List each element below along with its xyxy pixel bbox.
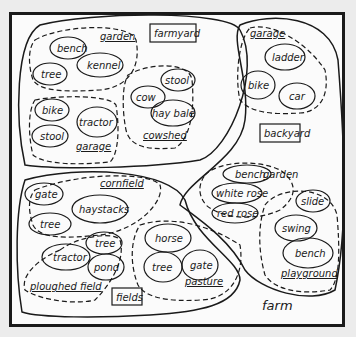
label-farm: farm [262, 298, 293, 313]
label-farmyard-garage: garage [76, 141, 111, 152]
item: ladder [272, 52, 305, 63]
label-cowshed: cowshed [143, 130, 187, 141]
item: cow [136, 92, 157, 103]
item: bench [235, 169, 266, 180]
item: bike [42, 105, 63, 116]
label-backyard-garden: garden [263, 169, 298, 180]
item: gate [35, 189, 58, 200]
item: slide [301, 196, 324, 207]
item: bench [57, 43, 88, 54]
item: tree [152, 262, 172, 273]
item: gate [190, 260, 213, 271]
item: tractor [79, 117, 114, 128]
item: red rose [217, 208, 258, 219]
label-backyard-garage: garage [250, 28, 285, 39]
label-pasture: pasture [184, 276, 223, 287]
item: kennel [87, 60, 121, 71]
item: stool [165, 75, 189, 86]
item: pond [93, 262, 120, 273]
item: tree [95, 238, 115, 249]
item: hay bale [152, 108, 195, 119]
item: horse [155, 233, 183, 244]
item: white rose [216, 188, 268, 199]
item: tractor [53, 252, 88, 263]
item: bench [295, 248, 326, 259]
farm-diagram: farmyard garden bench kennel tree garage… [0, 0, 356, 337]
label-farmyard: farmyard [154, 28, 201, 39]
item: stool [40, 131, 64, 142]
item: bike [248, 80, 269, 91]
label-backyard: backyard [264, 128, 311, 139]
label-playground: playground [280, 268, 338, 279]
label-ploughed-field: ploughed field [29, 281, 102, 292]
item: tree [40, 219, 60, 230]
item: haystacks [79, 204, 129, 215]
label-fields: fields [116, 292, 143, 303]
item: swing [282, 223, 311, 234]
label-cornfield: cornfield [100, 178, 144, 189]
item: tree [41, 69, 61, 80]
item: car [289, 91, 306, 102]
label-farmyard-garden: garden [100, 31, 135, 42]
